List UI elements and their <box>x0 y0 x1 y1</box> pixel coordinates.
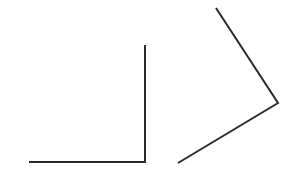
angles-figure-svg <box>0 0 293 177</box>
canvas-background <box>0 0 293 177</box>
drawing-canvas <box>0 0 293 177</box>
